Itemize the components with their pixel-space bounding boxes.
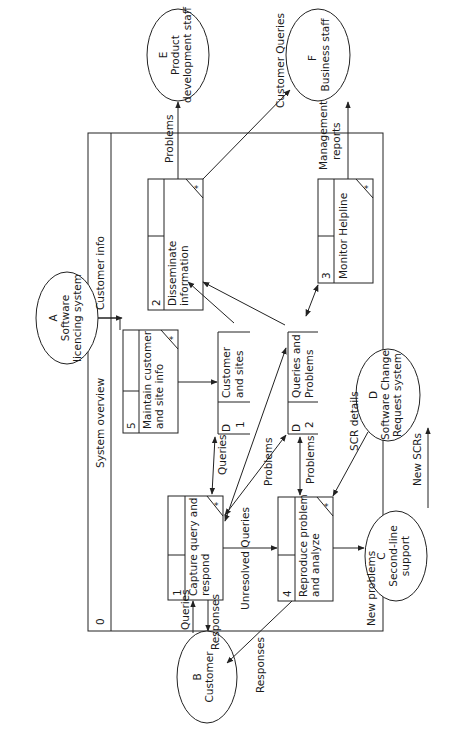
entity-e-line2: development staff bbox=[181, 6, 193, 103]
process-2[interactable]: * 2 Disseminate information bbox=[148, 179, 203, 310]
process-4-id: 4 bbox=[281, 590, 293, 597]
process-5[interactable]: * 5 Maintain customer and site info bbox=[123, 330, 178, 433]
flow-new-scrs: New SCRs bbox=[411, 428, 428, 508]
flow-unresolved-queries: Unresolved Queries bbox=[223, 507, 277, 610]
flow-problems-diag: Problems bbox=[225, 435, 286, 515]
process-4[interactable]: * 4 Reproduce problem and analyze bbox=[278, 494, 333, 601]
svg-text:Customer Queries: Customer Queries bbox=[274, 13, 286, 108]
data-store-d1-line2: and sites bbox=[233, 350, 245, 398]
entity-d-line1: Software Change bbox=[379, 350, 391, 440]
data-store-d2-line2: Problems bbox=[303, 350, 315, 398]
entity-b-id: B bbox=[191, 673, 203, 680]
entity-d-line2: Request system bbox=[391, 353, 403, 437]
flow-queries-in: Queries bbox=[179, 589, 193, 633]
entity-c-line1: Second-line bbox=[387, 525, 399, 586]
data-store-d2-prefix: D bbox=[290, 424, 302, 432]
svg-text:reports: reports bbox=[330, 122, 342, 160]
data-store-d1-prefix: D bbox=[220, 424, 232, 432]
flow-d2-process-3 bbox=[306, 285, 318, 316]
svg-text:New SCRs: New SCRs bbox=[411, 433, 423, 486]
flow-new-problems: New problems bbox=[333, 548, 377, 626]
process-5-marker: * bbox=[169, 335, 174, 345]
system-boundary-id: 0 bbox=[94, 618, 106, 625]
svg-text:New problems: New problems bbox=[365, 551, 377, 626]
process-4-line2: and analyze bbox=[309, 533, 321, 597]
entity-b-line1: Customer bbox=[203, 651, 215, 703]
process-4-line1: Reproduce problem bbox=[297, 494, 309, 597]
process-2-marker: * bbox=[194, 184, 199, 194]
process-2-id: 2 bbox=[150, 299, 162, 306]
entity-e-id: E bbox=[157, 52, 169, 59]
entity-d-id: D bbox=[367, 391, 379, 399]
entity-f-id: F bbox=[306, 55, 318, 61]
process-3[interactable]: * 3 Monitor Helpline bbox=[318, 179, 373, 283]
svg-text:Problems: Problems bbox=[262, 438, 274, 486]
external-entity-d[interactable]: D Software Change Request system bbox=[356, 349, 420, 441]
flow-responses-out: Responses bbox=[208, 594, 221, 650]
dfd-canvas: 0 System overview E Product development … bbox=[0, 0, 458, 729]
external-entity-e[interactable]: E Product development staff bbox=[147, 6, 209, 103]
svg-text:Customer info: Customer info bbox=[94, 236, 106, 310]
data-store-d1-line1: Customer bbox=[220, 346, 232, 398]
process-5-line2: and site info bbox=[153, 364, 165, 429]
process-3-id: 3 bbox=[320, 272, 332, 279]
flow-d2-to-2 bbox=[203, 282, 285, 325]
flow-problems-to-e: Problems bbox=[163, 102, 178, 179]
svg-text:Queries: Queries bbox=[179, 589, 191, 630]
svg-text:SCR details: SCR details bbox=[348, 391, 360, 451]
svg-text:Responses: Responses bbox=[254, 637, 266, 693]
flow-problems-d2: Problems bbox=[300, 436, 316, 495]
svg-text:Problems: Problems bbox=[304, 436, 316, 484]
process-1-line2: respond bbox=[199, 554, 211, 596]
process-1-line1: Capture query and bbox=[187, 498, 199, 597]
entity-a-line1: Software bbox=[59, 295, 71, 341]
data-store-d2[interactable]: D 2 Queries and Problems bbox=[288, 332, 318, 434]
entity-f-line1: Business staff bbox=[319, 18, 331, 92]
svg-text:Problems: Problems bbox=[163, 115, 175, 163]
process-5-line1: Maintain customer bbox=[141, 330, 153, 429]
entity-a-id: A bbox=[47, 314, 59, 322]
process-2-line2: information bbox=[178, 245, 190, 306]
entity-e-line1: Product bbox=[169, 35, 181, 75]
system-boundary-title: System overview bbox=[94, 378, 106, 468]
process-4-marker: * bbox=[324, 502, 329, 512]
svg-text:Queries: Queries bbox=[216, 434, 228, 475]
process-3-marker: * bbox=[364, 184, 369, 194]
process-5-id: 5 bbox=[125, 422, 137, 429]
data-store-d2-line1: Queries and bbox=[290, 334, 302, 398]
process-3-line1: Monitor Helpline bbox=[337, 193, 349, 279]
flow-management-reports: Management reports bbox=[317, 101, 348, 179]
process-1[interactable]: * 1 Capture query and respond bbox=[168, 496, 223, 600]
flow-customer-queries: Customer Queries bbox=[203, 13, 290, 179]
entity-a-line2: licencing system bbox=[71, 274, 83, 362]
data-store-d2-id: 2 bbox=[303, 421, 315, 428]
process-2-line1: Disseminate bbox=[166, 241, 178, 306]
process-1-marker: * bbox=[214, 501, 219, 511]
external-entity-f[interactable]: F Business staff bbox=[286, 9, 350, 101]
svg-text:Responses: Responses bbox=[209, 594, 221, 650]
flow-queries-d1: Queries bbox=[212, 434, 228, 494]
svg-text:Management: Management bbox=[317, 101, 329, 170]
external-entity-b[interactable]: B Customer bbox=[177, 631, 237, 723]
external-entity-a[interactable]: A Software licencing system bbox=[36, 272, 98, 364]
data-store-d1-id: 1 bbox=[234, 421, 246, 428]
entity-c-line2: support bbox=[399, 536, 411, 576]
data-store-d1[interactable]: D 1 Customer and sites bbox=[218, 332, 250, 434]
svg-text:Unresolved Queries: Unresolved Queries bbox=[239, 507, 251, 610]
